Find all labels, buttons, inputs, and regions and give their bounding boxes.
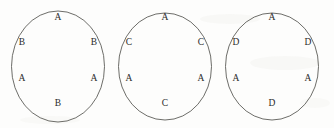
circle-1-letter-top: A [51,13,65,23]
circle-3-letter-lower-right: A [301,74,315,84]
figure-canvas: A B B A A B A C C A A C A D D A A D [0,0,334,128]
circle-1-letter-lower-right: A [87,74,101,84]
circle-2-letter-lower-right: A [194,74,208,84]
circle-1-letter-bottom: B [51,99,65,109]
circle-3-letter-lower-left: A [229,74,243,84]
circle-2-letter-bottom: C [158,99,172,109]
circle-1-letter-upper-left: B [15,38,29,48]
circle-1-letter-lower-left: A [15,74,29,84]
circle-2-letter-lower-left: A [122,74,136,84]
circle-group-2: A C C A A C [115,0,215,128]
circle-2-letter-top: A [158,13,172,23]
circle-group-1: A B B A A B [8,0,108,128]
circle-3-letter-upper-right: D [301,38,315,48]
circle-3-letter-bottom: D [265,99,279,109]
circle-group-3: A D D A A D [222,0,322,128]
circle-1-letter-upper-right: B [87,38,101,48]
circle-3-letter-upper-left: D [229,38,243,48]
circle-3-letter-top: A [265,13,279,23]
circle-2-letter-upper-left: C [122,38,136,48]
circle-2-letter-upper-right: C [194,38,208,48]
